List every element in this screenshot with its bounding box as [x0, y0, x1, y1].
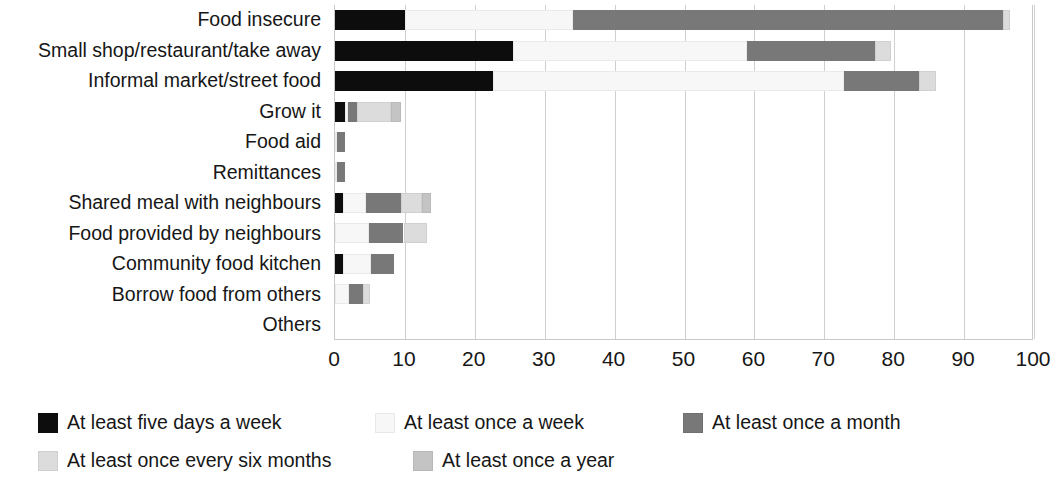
bar-segment — [363, 284, 370, 304]
bar-segment — [875, 41, 890, 61]
bar-row — [335, 66, 1034, 96]
category-label: Grow it — [0, 96, 330, 126]
bar-segment — [1003, 10, 1010, 30]
chart-legend: At least five days a weekAt least once a… — [38, 408, 1048, 476]
legend-swatch — [413, 451, 433, 471]
bar-track — [335, 102, 1034, 122]
legend-item[interactable]: At least once a year — [413, 446, 614, 476]
bar-row — [335, 157, 1034, 187]
x-tick-label: 80 — [882, 348, 905, 369]
legend-label: At least once every six months — [67, 451, 331, 471]
bar-segment — [343, 193, 366, 213]
legend-label: At least once a month — [712, 413, 901, 433]
bar-segment — [573, 10, 1003, 30]
legend-swatch — [38, 413, 58, 433]
bar-segment — [391, 102, 401, 122]
x-tick-label: 50 — [672, 348, 695, 369]
legend-item[interactable]: At least once a week — [375, 408, 584, 438]
category-label: Community food kitchen — [0, 249, 330, 279]
category-label: Informal market/street food — [0, 66, 330, 96]
x-tick-label: 20 — [462, 348, 485, 369]
bar-track — [335, 315, 1034, 335]
bar-segment — [404, 223, 427, 243]
bar-track — [335, 41, 1034, 61]
bar-segment — [349, 284, 363, 304]
bar-segment — [335, 41, 513, 61]
bar-row — [335, 218, 1034, 248]
legend-swatch — [38, 451, 58, 471]
bar-row — [335, 96, 1034, 126]
legend-swatch — [683, 413, 703, 433]
bar-row — [335, 127, 1034, 157]
x-tick-label: 10 — [392, 348, 415, 369]
x-tick-label: 40 — [602, 348, 625, 369]
bar-segment — [422, 193, 432, 213]
bar-segment — [335, 71, 493, 91]
bar-track — [335, 10, 1034, 30]
bar-segment — [357, 102, 391, 122]
plot-area — [334, 5, 1033, 340]
category-label: Food provided by neighbours — [0, 218, 330, 248]
category-label: Others — [0, 310, 330, 340]
bar-row — [335, 249, 1034, 279]
bar-track — [335, 223, 1034, 243]
bar-row — [335, 279, 1034, 309]
bar-segment — [348, 102, 356, 122]
bar-track — [335, 71, 1034, 91]
bar-segment — [493, 71, 844, 91]
legend-label: At least once a year — [442, 451, 614, 471]
bar-row — [335, 5, 1034, 35]
bar-row — [335, 310, 1034, 340]
bar-segment — [337, 132, 345, 152]
gridline — [1034, 5, 1035, 339]
bar-segment — [337, 162, 345, 182]
legend-swatch — [375, 413, 395, 433]
bar-segment — [335, 284, 349, 304]
legend-item[interactable]: At least once every six months — [38, 446, 331, 476]
category-label: Shared meal with neighbours — [0, 188, 330, 218]
bar-segment — [335, 193, 343, 213]
bar-track — [335, 132, 1034, 152]
legend-label: At least five days a week — [67, 413, 282, 433]
category-label: Food insecure — [0, 5, 330, 35]
bar-segment — [844, 71, 919, 91]
bar-row — [335, 188, 1034, 218]
x-tick-label: 100 — [1015, 348, 1050, 369]
x-axis: 0102030405060708090100 — [334, 348, 1033, 382]
bar-track — [335, 193, 1034, 213]
bar-row — [335, 35, 1034, 65]
bar-series-container — [335, 5, 1034, 340]
bar-segment — [335, 223, 369, 243]
legend-item[interactable]: At least five days a week — [38, 408, 282, 438]
bar-segment — [405, 10, 573, 30]
legend-label: At least once a week — [404, 413, 584, 433]
bar-track — [335, 254, 1034, 274]
plot-wrapper: Food insecureSmall shop/restaurant/take … — [0, 0, 1061, 400]
bar-segment — [335, 10, 405, 30]
x-tick-label: 60 — [742, 348, 765, 369]
bar-segment — [401, 193, 421, 213]
bar-segment — [343, 254, 371, 274]
stacked-bar-chart: Food insecureSmall shop/restaurant/take … — [0, 0, 1061, 477]
bar-segment — [335, 102, 345, 122]
legend-item[interactable]: At least once a month — [683, 408, 901, 438]
bar-segment — [369, 223, 404, 243]
category-label: Small shop/restaurant/take away — [0, 35, 330, 65]
category-label: Food aid — [0, 127, 330, 157]
category-label: Borrow food from others — [0, 279, 330, 309]
category-axis: Food insecureSmall shop/restaurant/take … — [0, 5, 330, 340]
x-tick-label: 90 — [951, 348, 974, 369]
bar-segment — [919, 71, 936, 91]
x-tick-label: 70 — [812, 348, 835, 369]
bar-track — [335, 284, 1034, 304]
bar-segment — [335, 254, 343, 274]
x-tick-label: 0 — [328, 348, 340, 369]
bar-track — [335, 162, 1034, 182]
bar-segment — [747, 41, 875, 61]
category-label: Remittances — [0, 157, 330, 187]
bar-segment — [513, 41, 747, 61]
x-tick-label: 30 — [532, 348, 555, 369]
bar-segment — [366, 193, 401, 213]
bar-segment — [371, 254, 393, 274]
